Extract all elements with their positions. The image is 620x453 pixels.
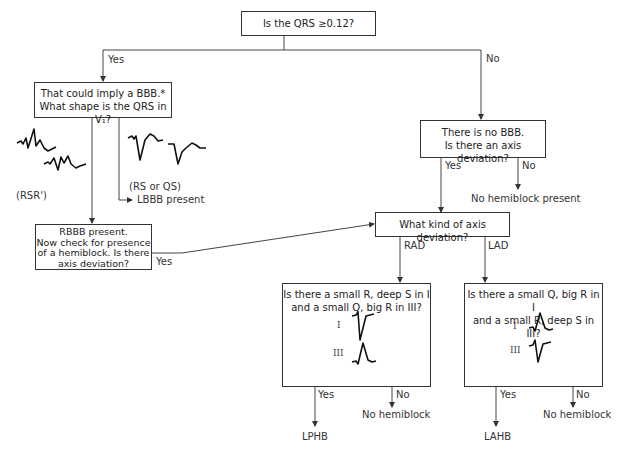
rbbb-line1: RBBB present. (36, 227, 151, 238)
no-bbb-line1: There is no BBB. (421, 126, 545, 139)
rad-no-hemiblock-label: No hemiblock (362, 409, 430, 421)
lahb-result-label: LAHB (484, 431, 511, 443)
bbb-question-box: That could imply a BBB.* What shape is t… (34, 82, 172, 118)
lad-lead-i-waveform-icon (527, 310, 557, 336)
rbbb-line3: of a hemiblock. Is there (36, 248, 151, 259)
no-bbb-yes-label: Yes (445, 160, 461, 172)
rsr-waveform-icon (14, 126, 94, 176)
lad-lead-i-label: I (513, 321, 517, 331)
rbbb-line4: axis deviation? (36, 259, 151, 270)
rad-yes-label: Yes (318, 389, 334, 401)
lad-lead-iii-label: III (510, 345, 521, 355)
bbb-line2: What shape is the QRS in V₁? (35, 100, 171, 126)
rad-lead-iii-waveform-icon (350, 340, 380, 368)
rs-qs-label: (RS or QS) (129, 181, 181, 193)
rbbb-box: RBBB present. Now check for presence of … (35, 224, 152, 270)
no-hemiblock-present-label: No hemiblock present (471, 193, 581, 205)
axis-deviation-box: What kind of axis deviation? (375, 212, 510, 237)
lad-no-hemiblock-label: No hemiblock (543, 409, 611, 421)
rad-lead-iii-label: III (333, 348, 344, 358)
rbbb-yes-label: Yes (156, 256, 172, 268)
rad-no-label: No (396, 389, 410, 401)
lad-yes-label: Yes (500, 389, 516, 401)
rsr-label: (RSR') (16, 190, 47, 202)
rad-label: RAD (404, 240, 425, 252)
lbbb-present-label: LBBB present (137, 194, 204, 206)
lphb-result-label: LPHB (302, 431, 328, 443)
root-no-label: No (486, 53, 500, 65)
lad-label: LAD (488, 240, 508, 252)
rad-line1: Is there a small R, deep S in I (283, 288, 430, 301)
no-bbb-box: There is no BBB. Is there an axis deviat… (420, 120, 546, 158)
root-yes-label: Yes (108, 54, 124, 66)
no-bbb-no-label: No (522, 160, 536, 172)
lad-no-label: No (576, 389, 590, 401)
rad-lead-i-waveform-icon (350, 310, 380, 342)
bbb-line1: That could imply a BBB.* (35, 87, 171, 100)
root-question-box: Is the QRS ≥0.12? (241, 11, 376, 36)
rs-qs-waveform-icon (126, 130, 211, 170)
lad-lead-iii-waveform-icon (527, 336, 557, 366)
root-question-text: Is the QRS ≥0.12? (263, 18, 354, 29)
rad-lead-i-label: I (337, 320, 341, 330)
